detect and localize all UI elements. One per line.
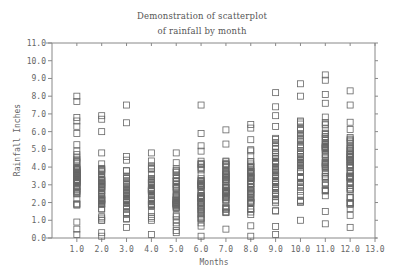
- x-tick-label: 9.0: [268, 245, 283, 254]
- data-point: [148, 214, 154, 220]
- x-tick-label: 8.0: [244, 245, 259, 254]
- data-point: [248, 223, 254, 229]
- data-point: [148, 150, 154, 156]
- data-point: [148, 231, 154, 237]
- data-point: [347, 186, 353, 192]
- data-point: [248, 122, 254, 128]
- x-tick-label: 2.0: [94, 245, 109, 254]
- data-points: [74, 72, 353, 239]
- x-tick-label: 13.0: [365, 245, 384, 254]
- data-point: [322, 180, 328, 186]
- data-point: [148, 209, 154, 215]
- data-point: [322, 221, 328, 227]
- data-point: [297, 199, 303, 205]
- data-point: [347, 186, 353, 192]
- data-point: [273, 208, 279, 214]
- x-tick-label: 3.0: [119, 245, 134, 254]
- data-point: [273, 113, 279, 119]
- x-tick-label: 11.0: [316, 245, 335, 254]
- data-point: [124, 153, 130, 159]
- data-point: [173, 228, 179, 234]
- x-tick-label: 7.0: [219, 245, 234, 254]
- data-point: [74, 142, 80, 148]
- data-point: [198, 102, 204, 108]
- data-point: [322, 208, 328, 214]
- data-point: [297, 217, 303, 223]
- data-point: [74, 148, 80, 154]
- data-point: [74, 152, 80, 158]
- y-axis-label: Rainfall Inches: [13, 104, 22, 176]
- data-point: [273, 231, 279, 237]
- data-point: [148, 215, 154, 221]
- x-axis-label: Months: [200, 258, 229, 267]
- data-point: [173, 150, 179, 156]
- data-point: [74, 114, 80, 120]
- y-tick-label: 7.0: [32, 110, 47, 119]
- data-point: [322, 159, 328, 165]
- data-point: [223, 127, 229, 133]
- data-point: [99, 150, 105, 156]
- x-tick-label: 12.0: [341, 245, 360, 254]
- scatter-plot: 0.01.02.03.04.05.06.07.08.09.010.011.01.…: [0, 0, 404, 276]
- data-point: [223, 226, 229, 232]
- data-point: [74, 130, 80, 136]
- data-point: [99, 214, 105, 220]
- data-point: [99, 230, 105, 236]
- data-point: [248, 125, 254, 131]
- data-point: [99, 215, 105, 221]
- data-point: [347, 119, 353, 125]
- data-point: [173, 230, 179, 236]
- data-point: [223, 141, 229, 147]
- data-point: [74, 154, 80, 160]
- data-point: [74, 156, 80, 162]
- x-tick-label: 4.0: [144, 245, 159, 254]
- data-point: [297, 197, 303, 203]
- data-point: [347, 88, 353, 94]
- data-point: [99, 217, 105, 223]
- data-point: [273, 208, 279, 214]
- data-point: [297, 93, 303, 99]
- data-point: [173, 223, 179, 229]
- y-tick-label: 3.0: [32, 181, 47, 190]
- data-point: [347, 102, 353, 108]
- x-tick-label: 6.0: [194, 245, 209, 254]
- data-point: [124, 120, 130, 126]
- y-tick-label: 0.0: [32, 234, 47, 243]
- data-point: [347, 212, 353, 218]
- y-tick-label: 2.0: [32, 199, 47, 208]
- data-point: [347, 188, 353, 194]
- data-point: [248, 137, 254, 143]
- data-point: [347, 224, 353, 230]
- data-point: [124, 177, 130, 183]
- y-tick-label: 8.0: [32, 92, 47, 101]
- data-point: [273, 150, 279, 156]
- data-point: [297, 199, 303, 205]
- data-point: [99, 217, 105, 223]
- x-tick-label: 10.0: [291, 245, 310, 254]
- data-point: [74, 219, 80, 225]
- axes: 0.01.02.03.04.05.06.07.08.09.010.011.01.…: [27, 39, 385, 254]
- data-point: [322, 163, 328, 169]
- data-point: [273, 90, 279, 96]
- y-tick-label: 9.0: [32, 74, 47, 83]
- data-point: [173, 160, 179, 166]
- x-tick-label: 5.0: [169, 245, 184, 254]
- x-tick-label: 1.0: [70, 245, 85, 254]
- data-point: [297, 81, 303, 87]
- data-point: [248, 159, 254, 165]
- data-point: [322, 169, 328, 175]
- data-point: [322, 100, 328, 106]
- data-point: [322, 91, 328, 97]
- data-point: [248, 161, 254, 167]
- y-tick-label: 1.0: [32, 216, 47, 225]
- y-tick-label: 4.0: [32, 163, 47, 172]
- y-tick-label: 11.0: [27, 39, 46, 48]
- data-point: [99, 129, 105, 135]
- data-point: [198, 130, 204, 136]
- data-point: [347, 127, 353, 133]
- data-point: [148, 217, 154, 223]
- data-point: [99, 113, 105, 119]
- data-point: [347, 134, 353, 140]
- data-point: [273, 123, 279, 129]
- data-point: [124, 224, 130, 230]
